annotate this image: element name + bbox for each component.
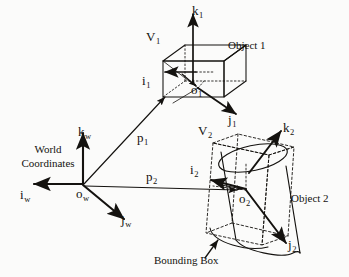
world-i-axis-label: iw bbox=[20, 188, 30, 202]
object1-axes bbox=[165, 14, 236, 114]
object1-volume-label: V1 bbox=[146, 30, 160, 44]
figure-vector-graphics bbox=[0, 0, 349, 277]
object2-k-axis-label: k2 bbox=[283, 121, 294, 135]
world-origin-label: ow bbox=[76, 187, 89, 201]
bounding-box-label: Bounding Box bbox=[154, 255, 218, 267]
object1-k-axis-label: k1 bbox=[192, 4, 203, 18]
vector-p2 bbox=[85, 186, 237, 190]
world-caption-line2: Coordinates bbox=[10, 157, 86, 171]
vector-p1-label: p1 bbox=[137, 131, 148, 145]
object1-i-axis-label: i1 bbox=[142, 74, 150, 88]
coordinate-frames-figure: V1 k1 i1 j1 o1 Object 1 kw iw jw ow Worl… bbox=[0, 0, 349, 277]
object1-j-axis-label: j1 bbox=[228, 113, 236, 127]
object1-origin-label: o1 bbox=[191, 83, 202, 97]
object2-name-label: Object 2 bbox=[291, 193, 329, 205]
world-coordinates-caption: World Coordinates bbox=[10, 143, 86, 171]
object2-volume-label: V2 bbox=[198, 124, 212, 138]
object1-name-label: Object 1 bbox=[228, 40, 266, 52]
world-k-axis-label: kw bbox=[78, 125, 91, 139]
world-caption-line1: World bbox=[10, 143, 86, 157]
world-j-axis-label: jw bbox=[121, 213, 131, 227]
vector-p2-label: p2 bbox=[146, 170, 157, 184]
object2-cylinder-base bbox=[210, 228, 268, 248]
object2-origin-label: o2 bbox=[239, 192, 250, 206]
object2-axis-guides bbox=[213, 163, 246, 190]
object2-j-axis-label: j2 bbox=[288, 238, 296, 252]
object2-i-axis-label: i2 bbox=[190, 163, 198, 177]
